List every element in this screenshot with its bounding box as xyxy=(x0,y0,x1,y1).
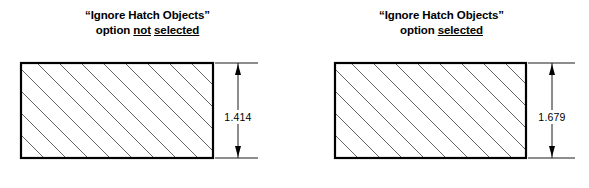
figure-root: “Ignore Hatch Objects” option not select… xyxy=(0,0,589,188)
drawing-selected: 1.679 xyxy=(294,0,589,188)
dimension-arrow-top-left xyxy=(235,64,241,75)
dimension-arrow-bottom-right xyxy=(549,146,555,157)
dimension-value-left: 1.414 xyxy=(224,111,251,123)
dimension-arrow-top-right xyxy=(549,64,555,75)
hatched-rectangle-diagram-left: 1.414 xyxy=(0,0,295,188)
drawing-not-selected: 1.414 xyxy=(0,0,295,188)
dimension-arrow-bottom-left xyxy=(235,146,241,157)
hatched-rectangle-diagram-right: 1.679 xyxy=(294,0,589,188)
panel-ignore-hatch-not-selected: “Ignore Hatch Objects” option not select… xyxy=(0,0,295,188)
panel-ignore-hatch-selected: “Ignore Hatch Objects” option selected xyxy=(294,0,589,188)
dimension-value-right: 1.679 xyxy=(538,111,565,123)
